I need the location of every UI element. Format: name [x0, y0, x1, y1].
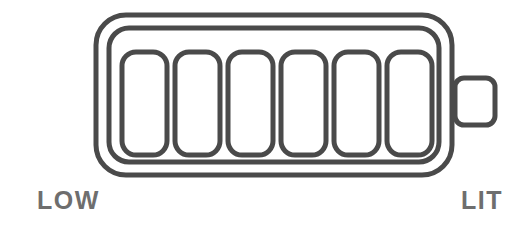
lit-label: LIT: [461, 188, 503, 213]
battery-terminal-nub: [455, 78, 495, 125]
battery-indicator-canvas: LOW LIT: [0, 0, 528, 229]
low-label: LOW: [37, 188, 100, 213]
